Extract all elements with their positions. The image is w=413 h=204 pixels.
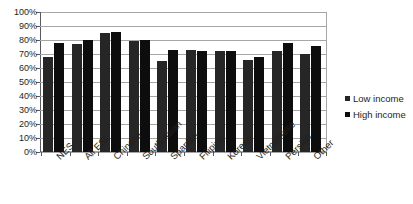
bar-group xyxy=(241,12,270,152)
y-axis-tick-label: 50% xyxy=(3,78,37,87)
legend-item: Low income xyxy=(345,91,413,107)
legend-swatch-icon xyxy=(345,112,350,117)
y-axis: 100%90%80%70%60%50%40%30%20%10%0% xyxy=(0,12,37,152)
bar-group xyxy=(70,12,99,152)
x-axis-labels: NESAll ESLChineseSouth AsianSpanishFilip… xyxy=(0,154,340,204)
bar-group xyxy=(98,12,127,152)
bar-group xyxy=(213,12,242,152)
y-axis-tick-label: 20% xyxy=(3,120,37,129)
bar xyxy=(54,43,64,152)
bar-group xyxy=(41,12,70,152)
bar-chart: 100%90%80%70%60%50%40%30%20%10%0% NESAll… xyxy=(0,0,413,204)
bar xyxy=(254,57,264,152)
y-axis-tick-label: 80% xyxy=(3,36,37,45)
bar-group xyxy=(127,12,156,152)
y-axis-tick-label: 100% xyxy=(3,8,37,17)
bar-group xyxy=(184,12,213,152)
bar xyxy=(226,51,236,152)
legend-swatch-icon xyxy=(345,96,350,101)
y-axis-tick-label: 40% xyxy=(3,92,37,101)
bar xyxy=(43,57,53,152)
bar xyxy=(311,46,321,152)
bar xyxy=(83,40,93,152)
bar-group xyxy=(298,12,327,152)
chart-legend: Low incomeHigh income xyxy=(345,91,413,123)
y-axis-tick-label: 30% xyxy=(3,106,37,115)
legend-item: High income xyxy=(345,107,413,123)
y-axis-tick-label: 90% xyxy=(3,22,37,31)
bar xyxy=(72,44,82,152)
y-axis-tick-label: 10% xyxy=(3,134,37,143)
y-axis-tick-label: 60% xyxy=(3,64,37,73)
legend-label: Low income xyxy=(353,94,404,104)
y-axis-tick-label: 70% xyxy=(3,50,37,59)
bar xyxy=(111,32,121,152)
legend-label: High income xyxy=(353,110,406,120)
